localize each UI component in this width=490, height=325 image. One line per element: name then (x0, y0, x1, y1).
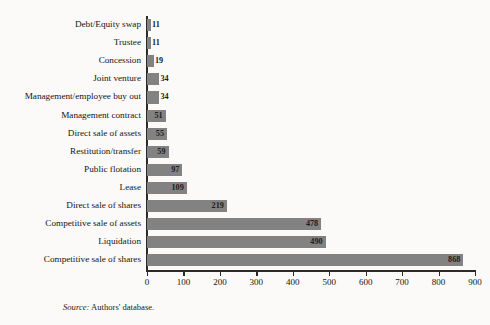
bar-value-label: 478 (306, 220, 318, 228)
category-label: Competitive sale of assets (45, 220, 141, 229)
x-axis-tick-label: 400 (286, 277, 300, 287)
plot-area: Debt/Equity swap11Trustee11Concession19J… (147, 16, 475, 270)
category-label: Direct sale of shares (66, 201, 141, 210)
x-axis-tick (475, 271, 476, 276)
x-axis-tick (402, 271, 403, 276)
x-axis-tick (366, 271, 367, 276)
bar-row: Competitive sale of shares868 (147, 251, 475, 269)
bar-row: Liquidation490 (147, 233, 475, 251)
x-axis-tick-label: 900 (468, 277, 482, 287)
x-axis-tick-label: 100 (177, 277, 191, 287)
source-note: Source: Authors' database. (63, 302, 154, 312)
bar-row: Direct sale of shares219 (147, 197, 475, 215)
category-label: Public flotation (84, 165, 141, 174)
bar-value-label: 11 (152, 39, 160, 47)
category-label: Concession (99, 57, 141, 66)
bar-value-label: 51 (154, 111, 162, 119)
x-axis-tick-label: 300 (250, 277, 264, 287)
x-axis-tick (220, 271, 221, 276)
bar-value-label: 490 (310, 238, 322, 246)
bar-row: Management/employee buy out34 (147, 88, 475, 106)
bar-row: Public flotation97 (147, 161, 475, 179)
bar (147, 55, 154, 67)
bar (147, 19, 151, 31)
x-axis-tick (439, 271, 440, 276)
bar-value-label: 19 (155, 57, 163, 65)
category-label: Management/employee buy out (25, 93, 141, 102)
category-label: Competitive sale of shares (44, 256, 141, 265)
category-label: Restitution/transfer (70, 147, 141, 156)
bar-chart-figure: Debt/Equity swap11Trustee11Concession19J… (0, 0, 490, 325)
x-axis-tick (147, 271, 148, 276)
bar-value-label: 868 (448, 256, 460, 264)
bar-row: Joint venture34 (147, 70, 475, 88)
x-axis-tick (183, 271, 184, 276)
category-label: Trustee (114, 39, 141, 48)
x-axis-tick-label: 0 (145, 277, 150, 287)
x-axis-tick-label: 600 (359, 277, 373, 287)
bar-row: Concession19 (147, 52, 475, 70)
bar-value-label: 34 (160, 93, 168, 101)
category-label: Management contract (61, 111, 141, 120)
x-axis-tick (329, 271, 330, 276)
x-axis-tick-label: 500 (322, 277, 336, 287)
category-label: Liquidation (98, 238, 141, 247)
x-axis-line (146, 270, 476, 272)
bar-value-label: 34 (160, 75, 168, 83)
bar-value-label: 11 (152, 21, 160, 29)
bar-value-label: 109 (171, 184, 183, 192)
category-label: Lease (120, 183, 141, 192)
bar-row: Restitution/transfer59 (147, 143, 475, 161)
bar (147, 91, 159, 103)
source-value: Authors' database. (89, 302, 154, 312)
category-label: Direct sale of assets (68, 129, 141, 138)
bar-value-label: 219 (212, 202, 224, 210)
bar-row: Debt/Equity swap11 (147, 16, 475, 34)
x-axis-tick-label: 700 (395, 277, 409, 287)
source-label: Source: (63, 302, 89, 312)
bar-row: Lease109 (147, 179, 475, 197)
bar-row: Direct sale of assets55 (147, 125, 475, 143)
x-axis-tick (293, 271, 294, 276)
bar (147, 254, 463, 266)
bar-row: Competitive sale of assets478 (147, 215, 475, 233)
bar-row: Management contract51 (147, 107, 475, 125)
bar (147, 218, 321, 230)
bar (147, 37, 151, 49)
category-label: Joint venture (93, 75, 141, 84)
x-axis-tick-label: 800 (432, 277, 446, 287)
bar (147, 236, 326, 248)
x-axis-tick (256, 271, 257, 276)
bar-row: Trustee11 (147, 34, 475, 52)
category-label: Debt/Equity swap (75, 20, 141, 29)
bar-value-label: 59 (157, 148, 165, 156)
bar-value-label: 55 (156, 130, 164, 138)
x-axis-tick-label: 200 (213, 277, 227, 287)
bar (147, 73, 159, 85)
bar-value-label: 97 (171, 166, 179, 174)
